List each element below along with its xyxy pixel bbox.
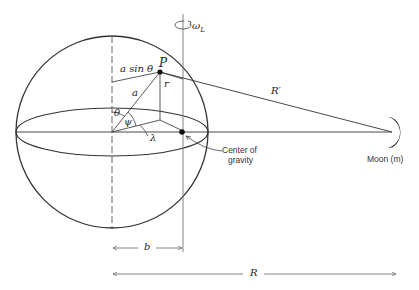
moon-crescent-icon: [388, 117, 400, 148]
b-label: b: [144, 242, 150, 252]
r-prime-label: R′: [271, 86, 281, 96]
r-distance-label: R: [250, 268, 258, 278]
lambda-leader: [140, 125, 148, 136]
a-sin-theta-label: a sin θ: [120, 64, 153, 74]
box-bottom-line: [160, 120, 183, 131]
diagram-graphics: [0, 0, 419, 290]
moon-label: Moon (m): [367, 155, 403, 164]
radius-a-line: [112, 72, 160, 132]
cg-leader: [186, 136, 222, 151]
psi-label: ψ: [124, 117, 132, 127]
point-p: [157, 69, 162, 74]
r-label: r: [164, 79, 169, 89]
lambda-label: λ: [150, 133, 156, 143]
center-of-gravity-label: Center of gravity: [222, 146, 257, 164]
a-label: a: [132, 88, 138, 98]
p-label: P: [159, 57, 167, 69]
theta-label: θ: [114, 108, 120, 118]
center-of-gravity-point: [179, 129, 185, 135]
r-prime-line: [160, 72, 392, 132]
omega-label: ωL: [192, 21, 205, 34]
tidal-geometry-diagram: ωL a sin θ P r a R′ θ ψ λ Center of grav…: [0, 0, 419, 290]
